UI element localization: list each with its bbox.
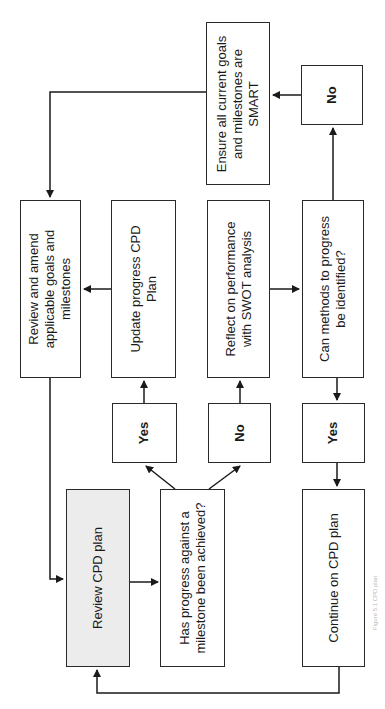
- has-progress-decision-node: Has progress against a milestone been ac…: [160, 489, 225, 667]
- figure-caption: Figure 5.1 CPD plan: [372, 576, 378, 630]
- yes-right-label: Yes: [325, 422, 341, 444]
- can-methods-decision-node: Can methods to progress be identified?: [302, 200, 364, 378]
- reflect-swot-label: Reflect on performance with SWOT analysi…: [223, 221, 255, 356]
- reflect-line2: with SWOT analysis: [239, 221, 255, 356]
- has-progress-label: Has progress against a milestone been ac…: [177, 502, 209, 653]
- continue-cpd-plan-label: Continue on CPD plan: [326, 513, 342, 642]
- ensure-smart-line3: SMART: [246, 35, 262, 172]
- update-progress-line1: Update progress CPD: [128, 225, 144, 352]
- ensure-smart-line1: Ensure all current goals: [214, 35, 230, 172]
- review-cpd-plan-label: Review CPD plan: [90, 527, 106, 629]
- review-cpd-plan-node: Review CPD plan: [66, 489, 130, 667]
- review-amend-line1: Review and amend: [27, 230, 43, 349]
- ensure-smart-label: Ensure all current goals and milestones …: [214, 35, 262, 172]
- ensure-smart-node: Ensure all current goals and milestones …: [206, 22, 270, 185]
- reflect-line1: Reflect on performance: [223, 221, 239, 356]
- update-progress-label: Update progress CPD Plan: [128, 225, 160, 352]
- no-mid-label: No: [232, 424, 248, 441]
- review-amend-line3: milestones: [59, 230, 75, 349]
- can-methods-label: Can methods to progress be identified?: [317, 216, 349, 362]
- review-amend-node: Review and amend applicable goals and mi…: [20, 200, 81, 378]
- yes-left-label: Yes: [136, 422, 152, 444]
- reflect-swot-node: Reflect on performance with SWOT analysi…: [207, 200, 270, 378]
- no-top-label: No: [324, 86, 340, 103]
- has-progress-line2: milestone been achieved?: [193, 502, 209, 653]
- has-progress-line1: Has progress against a: [177, 502, 193, 653]
- update-progress-line2: Plan: [144, 225, 160, 352]
- can-methods-line2: be identified?: [333, 216, 349, 362]
- can-methods-line1: Can methods to progress: [317, 216, 333, 362]
- review-amend-line2: applicable goals and: [43, 230, 59, 349]
- review-amend-label: Review and amend applicable goals and mi…: [27, 230, 75, 349]
- no-mid-node: No: [208, 403, 271, 463]
- no-top-node: No: [301, 65, 363, 125]
- continue-cpd-plan-node: Continue on CPD plan: [302, 489, 365, 667]
- yes-left-node: Yes: [112, 403, 177, 463]
- ensure-smart-line2: and milestones are: [230, 35, 246, 172]
- yes-right-node: Yes: [302, 403, 365, 463]
- update-progress-node: Update progress CPD Plan: [111, 200, 176, 378]
